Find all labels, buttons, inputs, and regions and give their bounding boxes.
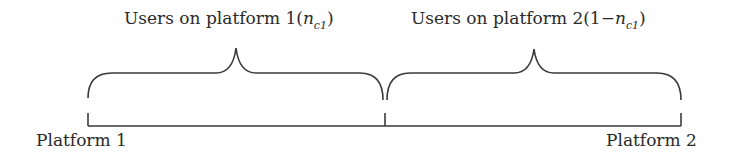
label-suffix: ) [639, 8, 646, 28]
variable-n: n [615, 8, 626, 28]
label-suffix: ) [327, 8, 334, 28]
brace-platform-2-users [387, 49, 681, 100]
label-text: Users on platform 2(1− [411, 8, 615, 28]
label-platform-1: Platform 1 [36, 130, 127, 150]
subscript-c1: c1 [626, 19, 639, 32]
label-users-platform-2: Users on platform 2(1−nc1) [411, 8, 646, 32]
label-platform-2: Platform 2 [606, 130, 697, 150]
label-users-platform-1: Users on platform 1(nc1) [124, 8, 334, 32]
variable-n: n [303, 8, 314, 28]
label-text: Users on platform 1( [124, 8, 303, 28]
subscript-c1: c1 [314, 19, 327, 32]
brace-platform-1-users [88, 48, 383, 100]
